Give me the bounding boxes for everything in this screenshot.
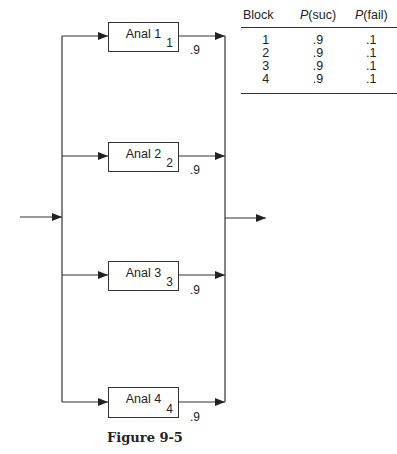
block-anal-1: Anal 1 1 (108, 22, 179, 52)
block-anal-2: Anal 2 2 (108, 142, 179, 172)
block-probability: .9 (190, 43, 200, 57)
block-probability: .9 (190, 410, 200, 424)
table-row: 4 .9 .1 (241, 73, 397, 94)
block-number: 1 (166, 36, 173, 50)
col-header-psuc: P(suc) (290, 8, 345, 28)
block-anal-3: Anal 3 3 (108, 261, 179, 291)
col-header-block: Block (241, 8, 290, 28)
block-number: 4 (166, 402, 173, 416)
probability-table: Block P(suc) P(fail) 1 .9 .1 2 .9 .1 3 .… (241, 8, 397, 94)
block-probability: .9 (190, 163, 200, 177)
col-header-pfail: P(fail) (346, 8, 397, 28)
block-anal-4: Anal 4 4 (108, 387, 179, 418)
figure-caption: Figure 9-5 (0, 430, 290, 445)
table-row: 1 .9 .1 (241, 28, 397, 48)
block-number: 2 (166, 156, 173, 170)
block-number: 3 (166, 275, 173, 289)
block-probability: .9 (190, 283, 200, 297)
